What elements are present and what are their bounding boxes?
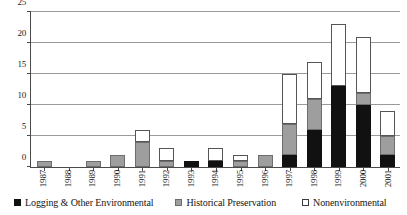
bar-segment [380, 111, 395, 136]
plot-area: 0510152025 [30, 12, 400, 168]
stacked-bar[interactable] [258, 155, 273, 167]
bar-segment [307, 62, 322, 99]
bar-slot [228, 12, 253, 167]
bar-segment [380, 155, 395, 167]
bar-segment [282, 155, 297, 167]
x-axis-tick-label: 1998 [309, 170, 319, 187]
y-axis-tick-mark [27, 104, 31, 105]
bar-series-group [32, 12, 400, 167]
stacked-bar[interactable] [380, 111, 395, 167]
bar-segment [356, 105, 371, 167]
x-axis-tick-label: 1987 [38, 170, 48, 187]
x-axis-tick-label: 1991 [137, 170, 147, 187]
chart-page: 0510152025 19871988198919901991199219931… [0, 0, 407, 215]
gray-square-icon [175, 199, 182, 206]
x-label-slot: 1992 [154, 170, 179, 194]
bar-segment [331, 24, 346, 86]
bar-slot [253, 12, 278, 167]
bar-segment [307, 99, 322, 130]
y-axis-tick-mark [27, 73, 31, 74]
x-axis-tick-label: 2001 [383, 170, 393, 187]
bar-segment [282, 74, 297, 124]
x-axis-tick-label: 1994 [210, 170, 220, 187]
bar-segment [356, 93, 371, 105]
legend-label: Logging & Other Environmental [25, 197, 153, 208]
bar-segment [380, 136, 395, 155]
bar-segment [159, 148, 174, 160]
x-label-slot: 1997 [277, 170, 302, 194]
y-axis-tick-label: 0 [22, 152, 26, 162]
x-axis-tick-label: 1993 [186, 170, 196, 187]
bar-segment [356, 37, 371, 93]
bar-slot [302, 12, 327, 167]
x-axis-tick-label: 1992 [161, 170, 171, 187]
y-axis-tick-label: 25 [17, 0, 26, 7]
x-axis-tick-label: 1995 [235, 170, 245, 187]
stacked-bar[interactable] [110, 155, 125, 167]
bar-segment [282, 124, 297, 155]
bar-slot [57, 12, 82, 167]
stacked-bar[interactable] [331, 24, 346, 167]
stacked-bar[interactable] [233, 155, 248, 167]
y-axis-tick-label: 20 [17, 28, 26, 38]
stacked-bar[interactable] [159, 148, 174, 167]
white-square-icon [302, 199, 309, 206]
y-axis-tick-label: 15 [17, 59, 26, 69]
x-axis-tick-label: 1997 [284, 170, 294, 187]
x-label-slot: 1998 [302, 170, 327, 194]
bar-slot [351, 12, 376, 167]
stacked-bar[interactable] [356, 37, 371, 167]
x-label-slot: 1990 [105, 170, 130, 194]
bar-segment [331, 86, 346, 167]
stacked-bar[interactable] [282, 74, 297, 167]
black-square-icon [14, 199, 21, 206]
bar-slot [179, 12, 204, 167]
stacked-bar[interactable] [307, 62, 322, 167]
x-axis-tick-label: 1996 [260, 170, 270, 187]
x-label-slot: 2000 [351, 170, 376, 194]
bar-slot [81, 12, 106, 167]
y-axis-tick-label: 10 [17, 90, 26, 100]
x-axis-tick-label: 1989 [87, 170, 97, 187]
x-label-slot: 1996 [252, 170, 277, 194]
x-label-slot: 2001 [375, 170, 400, 194]
bar-slot [375, 12, 400, 167]
bar-slot [130, 12, 155, 167]
bar-slot [32, 12, 57, 167]
x-label-slot: 1991 [129, 170, 154, 194]
bar-slot [326, 12, 351, 167]
bar-segment [110, 155, 125, 167]
y-axis-tick-label: 5 [22, 121, 26, 131]
legend-item-historical: Historical Preservation [175, 197, 276, 208]
x-label-slot: 1988 [56, 170, 81, 194]
bar-segment [258, 155, 273, 167]
bar-slot [106, 12, 131, 167]
y-axis-tick-mark [27, 135, 31, 136]
y-axis-tick-mark [27, 166, 31, 167]
bar-segment [208, 148, 223, 160]
bar-segment [307, 130, 322, 167]
x-axis-labels: 1987198819891990199119921993199419951996… [31, 170, 400, 194]
stacked-bar[interactable] [208, 148, 223, 167]
bar-slot [204, 12, 229, 167]
y-axis-tick-mark [27, 11, 31, 12]
stacked-bar[interactable] [135, 130, 150, 167]
x-axis-tick-label: 1990 [112, 170, 122, 187]
bar-segment [135, 142, 150, 167]
x-axis-tick-label: 1988 [63, 170, 73, 187]
legend-item-nonenvironmental: Nonenvironmental [302, 197, 386, 208]
legend-label: Historical Preservation [186, 197, 276, 208]
bar-slot [277, 12, 302, 167]
x-label-slot: 1999 [326, 170, 351, 194]
x-label-slot: 1994 [203, 170, 228, 194]
bar-slot [155, 12, 180, 167]
chart-legend: Logging & Other Environmental Historical… [14, 197, 399, 208]
x-label-slot: 1995 [228, 170, 253, 194]
bar-segment [135, 130, 150, 142]
x-label-slot: 1993 [179, 170, 204, 194]
x-label-slot: 1987 [31, 170, 56, 194]
y-axis-tick-mark [27, 42, 31, 43]
x-label-slot: 1989 [80, 170, 105, 194]
legend-label: Nonenvironmental [313, 197, 386, 208]
x-axis-tick-label: 2000 [358, 170, 368, 187]
